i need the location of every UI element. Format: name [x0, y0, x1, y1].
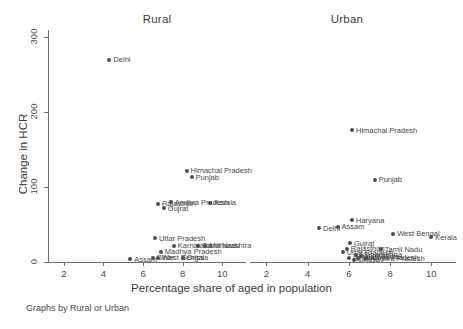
data-point-label: Orissa — [187, 253, 209, 262]
data-point-label: West Bengal — [397, 229, 439, 238]
data-point — [185, 169, 189, 173]
y-tick-label: 100 — [28, 176, 39, 198]
data-point-label: Assam — [342, 222, 365, 231]
data-point — [107, 58, 111, 62]
data-point — [336, 225, 340, 229]
x-tick-label: 2 — [54, 268, 74, 279]
data-point — [341, 250, 345, 254]
scatter-figure: Rural Urban Change in HCR 0100200300 246… — [0, 0, 463, 329]
x-tick-mark — [266, 262, 267, 266]
x-tick-label: 6 — [339, 268, 359, 279]
data-point-label: Andhra Pradesh — [370, 254, 424, 263]
y-tick-label: 300 — [28, 26, 39, 48]
data-point-label: Punjab — [196, 173, 219, 182]
data-point — [190, 175, 194, 179]
x-tick-mark — [308, 262, 309, 266]
x-tick-label: 10 — [212, 268, 232, 279]
x-tick-mark — [349, 262, 350, 266]
plot-area-rural: DelhiHimachal PradeshPunjabRajasthanAndh… — [48, 30, 246, 262]
data-point-label: Punjab — [379, 175, 402, 184]
x-axis-label: Percentage share of aged in population — [0, 282, 463, 294]
x-tick-mark — [64, 262, 65, 266]
figure-footnote: Graphs by Rural or Urban — [26, 303, 129, 313]
x-tick-mark — [183, 262, 184, 266]
data-point — [162, 206, 166, 210]
data-point — [352, 258, 356, 262]
data-point — [429, 235, 433, 239]
data-point — [128, 257, 132, 261]
panel-title-urban: Urban — [252, 13, 442, 25]
plot-area-urban: Himachal PradeshPunjabHaryanaDelhiAssamW… — [250, 30, 456, 262]
x-tick-label: 4 — [298, 268, 318, 279]
x-tick-mark — [103, 262, 104, 266]
data-point-label: Kerala — [214, 198, 236, 207]
data-point — [350, 128, 354, 132]
x-tick-label: 2 — [256, 268, 276, 279]
x-tick-label: 10 — [421, 268, 441, 279]
data-point-label: Delhi — [113, 55, 130, 64]
data-point — [156, 202, 160, 206]
data-point-label: Gujrat — [168, 204, 188, 213]
data-point — [181, 256, 185, 260]
y-axis-label: Change in HCR — [17, 54, 29, 254]
x-tick-mark — [431, 262, 432, 266]
data-point-label: Assam — [134, 255, 157, 264]
data-point-label: Kerala — [435, 233, 457, 242]
data-point — [317, 226, 321, 230]
data-point — [391, 232, 395, 236]
x-tick-label: 8 — [380, 268, 400, 279]
y-tick-label: 200 — [28, 101, 39, 123]
panel-title-rural: Rural — [62, 13, 252, 25]
data-point — [373, 178, 377, 182]
x-tick-mark — [222, 262, 223, 266]
x-tick-label: 4 — [93, 268, 113, 279]
data-point-label: Himachal Pradesh — [356, 126, 417, 135]
data-point — [347, 256, 351, 260]
y-tick-label: 0 — [28, 251, 39, 273]
x-tick-label: 8 — [173, 268, 193, 279]
data-point — [153, 236, 157, 240]
x-tick-label: 6 — [133, 268, 153, 279]
